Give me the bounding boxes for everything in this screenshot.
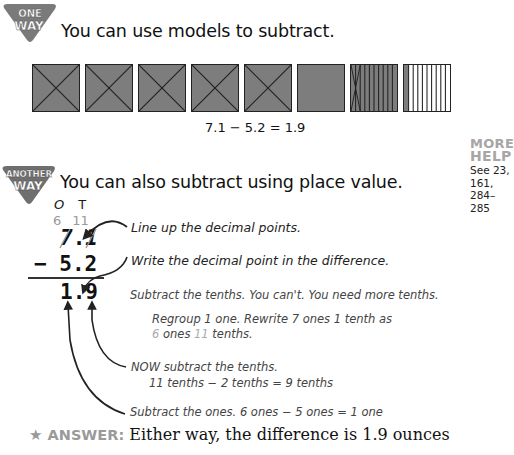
one-way-badge: ONE WAY — [0, 4, 60, 44]
note-subtract-tenths: Subtract the tenths. You can't. You need… — [130, 288, 439, 302]
more-help-references: See 23, 161, 284–285 — [470, 164, 511, 214]
minus-sign: − — [34, 252, 47, 276]
svg-text:ONE: ONE — [18, 8, 42, 19]
note-subtract-ones: Subtract the ones. 6 ones − 5 ones = 1 o… — [130, 405, 383, 419]
whole-square-crossed — [32, 64, 80, 112]
note-tenths-equation: 11 tenths − 2 tenths = 9 tenths — [149, 376, 333, 390]
reference-line: 161, — [470, 177, 511, 190]
svg-text:ANOTHER: ANOTHER — [6, 169, 53, 179]
more-help-line2: HELP — [470, 150, 514, 162]
answer-text: Either way, the difference is 1.9 ounces — [129, 425, 449, 444]
regroup-tenths-value: 11 — [194, 327, 209, 341]
note-line-up: Line up the decimal points. — [131, 220, 301, 235]
subtrahend: − 5.2 — [34, 252, 97, 276]
tenths-header: T — [78, 197, 86, 212]
answer-label: ANSWER: — [48, 427, 125, 443]
arrow-tenths-icon — [92, 305, 126, 367]
section-one-heading: You can use models to subtract. — [61, 21, 335, 41]
tenths-square-one-shaded — [403, 64, 451, 112]
note-regroup-line2: 6 ones 11 tenths. — [152, 327, 253, 341]
subtraction-model — [32, 64, 451, 114]
note-now-subtract: NOW subtract the tenths. — [131, 360, 278, 374]
whole-square-crossed — [191, 64, 239, 112]
ones-header: O — [54, 197, 64, 212]
note-regroup-line1: Regroup 1 one. Rewrite 7 ones 1 tenth as — [152, 312, 392, 326]
place-value-headers: OT — [54, 197, 86, 212]
svg-text:WAY: WAY — [13, 179, 43, 193]
svg-text:WAY: WAY — [14, 19, 44, 33]
arrow-ones-icon — [68, 305, 125, 414]
whole-square-crossed — [244, 64, 292, 112]
cross-out-marks — [58, 226, 108, 252]
reference-line: 284–285 — [470, 189, 511, 214]
answer-line: ★ ANSWER: Either way, the difference is … — [29, 425, 450, 444]
star-icon: ★ — [29, 426, 42, 444]
tenths-square-shaded — [350, 64, 398, 112]
text: tenths. — [209, 327, 253, 341]
more-help-title: MORE HELP — [470, 138, 514, 162]
whole-square-crossed — [85, 64, 133, 112]
text: ones — [159, 327, 194, 341]
section-two-heading: You can also subtract using place value. — [60, 172, 403, 192]
sum-line — [28, 277, 104, 279]
reference-line: See 23, — [470, 164, 511, 177]
whole-square — [297, 64, 345, 112]
whole-square-crossed — [138, 64, 186, 112]
difference: 1.9 — [60, 280, 98, 304]
model-equation: 7.1 − 5.2 = 1.9 — [205, 120, 305, 135]
another-way-badge: ANOTHER WAY — [0, 166, 58, 206]
note-write-point: Write the decimal point in the differenc… — [131, 253, 389, 268]
